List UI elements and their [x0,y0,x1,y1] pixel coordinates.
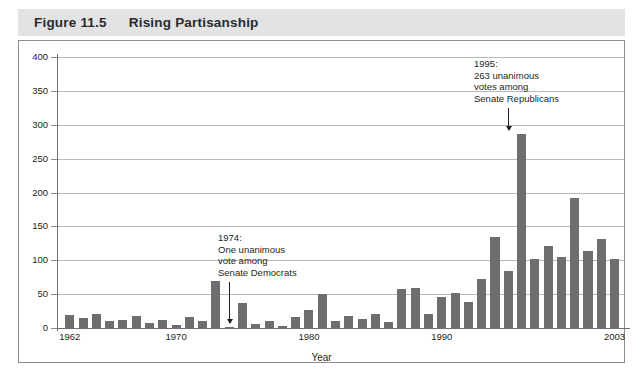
x-tick-label: 2003 [604,331,625,342]
figure-number-label: Figure 11.5 [34,15,107,30]
y-tick-mark [51,226,57,227]
annotation-line: 1995: [474,58,559,70]
bar [397,289,406,328]
y-tick-label: 350 [18,86,48,96]
bar [437,297,446,328]
bar [211,281,220,328]
y-tick-label: 100 [18,255,48,265]
bar [132,316,141,328]
bar [145,323,154,328]
bar [411,288,420,328]
bar [490,237,499,328]
y-tick-mark [51,328,57,329]
y-tick-mark [51,159,57,160]
bar [358,319,367,328]
y-tick-label: 400 [18,52,48,62]
bar [464,302,473,328]
bar [198,321,207,328]
bar [424,314,433,328]
annotation-1995-arrow-icon [508,108,509,130]
annotation-1995: 1995:263 unanimousvotes amongSenate Repu… [474,58,559,104]
annotation-line: Senate Republicans [474,93,559,105]
y-tick-label: 0 [18,323,48,333]
bar [172,325,181,328]
x-tick-label: 1990 [431,331,452,342]
bar [105,321,114,328]
gridline [58,159,624,160]
gridline [58,226,624,227]
bar [610,259,619,328]
annotation-1974-arrow-icon [229,282,230,323]
y-tick-mark [51,193,57,194]
bar [517,134,526,328]
gridline [58,125,624,126]
bar [304,310,313,328]
bar [318,294,327,328]
y-tick-label: 200 [18,188,48,198]
bar [451,293,460,328]
y-tick-mark [51,125,57,126]
bar [65,315,74,328]
bar [597,239,606,328]
bar [251,324,260,328]
bar [557,257,566,328]
bar [583,251,592,328]
figure-header-band: Figure 11.5 Rising Partisanship [18,9,625,36]
bar [158,320,167,328]
bar [185,317,194,328]
figure-container: Figure 11.5 Rising Partisanship Number o… [0,0,643,373]
bar [291,317,300,328]
gridline [58,193,624,194]
x-tick-label: 1980 [298,331,319,342]
annotation-line: 1974: [218,232,297,244]
annotation-line: votes among [474,81,559,93]
bar [79,318,88,328]
bar [225,327,234,329]
y-tick-label: 300 [18,120,48,130]
bar [238,303,247,328]
bar [118,320,127,328]
y-tick-label: 50 [18,289,48,299]
y-tick-label: 250 [18,154,48,164]
annotation-1974: 1974:One unanimousvote amongSenate Democ… [218,232,297,278]
bar [530,259,539,328]
bar [344,316,353,328]
y-tick-mark [51,260,57,261]
figure-title-label: Rising Partisanship [129,15,259,30]
bar [384,322,393,328]
x-axis-line [52,328,630,329]
annotation-line: One unanimous [218,244,297,256]
x-tick-label: 1962 [59,331,80,342]
y-tick-mark [51,294,57,295]
bar [477,279,486,328]
bar [544,246,553,328]
y-tick-label: 150 [18,221,48,231]
y-tick-mark [51,91,57,92]
annotation-line: 263 unanimous [474,70,559,82]
x-tick-label: 1970 [166,331,187,342]
annotation-line: vote among [218,255,297,267]
y-tick-mark [51,57,57,58]
bar [265,321,274,328]
bar [504,271,513,328]
bar [278,326,287,328]
bar [331,321,340,328]
annotation-line: Senate Democrats [218,267,297,279]
bar [92,314,101,328]
bar [371,314,380,328]
x-axis-title: Year [0,352,643,363]
bar [570,198,579,328]
